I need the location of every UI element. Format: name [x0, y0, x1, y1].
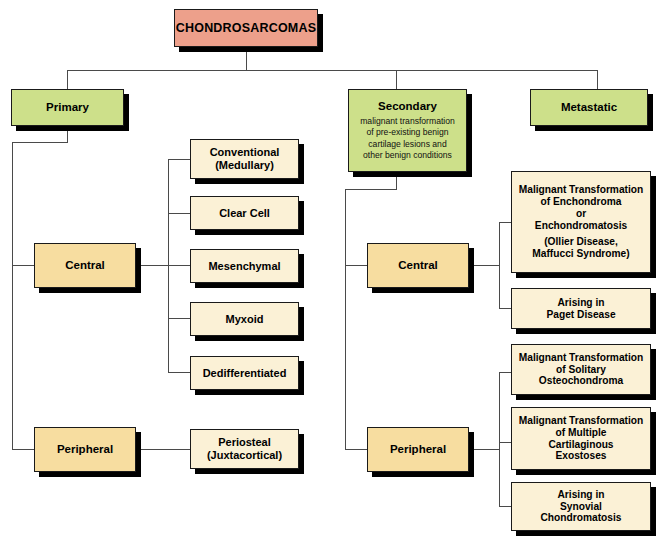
connector-leaf-myxoid [168, 318, 190, 319]
connector-sec-central-item1 [499, 222, 511, 223]
chondrosarcoma-classification-diagram: CHONDROSARCOMAS Primary Secondary malign… [0, 0, 662, 536]
connector-drop-primary [67, 70, 68, 89]
node-subtitle: malignant transformation of pre-existing… [360, 116, 455, 161]
leaf-line-3: Osteochondroma [539, 375, 623, 387]
connector-primary-spine [12, 142, 13, 450]
connector-sec-central-out [469, 265, 499, 266]
leaf-line-1: Mesenchymal [208, 260, 280, 273]
subtitle-line: malignant transformation [360, 116, 455, 127]
leaf-line-4: Enchondromatosis [535, 220, 627, 232]
leaf-line-1: Arising in [558, 297, 605, 309]
subtitle-line: of pre-existing benign [360, 127, 455, 138]
subtitle-line: cartilage lesions and [360, 139, 455, 150]
connector-primary-to-central [12, 265, 34, 266]
node-label: Peripheral [57, 443, 113, 456]
node-label: Peripheral [390, 443, 446, 456]
node-secondary-central[interactable]: Central [367, 243, 469, 288]
connector-primary-stem [67, 126, 68, 143]
leaf-line-2: (Medullary) [215, 159, 274, 172]
leaf-paren-line-2: Maffucci Syndrome) [532, 248, 629, 260]
connector-peripheral-to-periosteal [136, 449, 190, 450]
leaf-line-1: Myxoid [226, 313, 264, 326]
connector-sec-central-item2 [499, 308, 511, 309]
connector-drop-metastatic [597, 70, 598, 89]
connector-secondary-elbow [345, 189, 397, 190]
connector-leaf-dediff [168, 372, 190, 373]
node-label: Secondary [378, 100, 437, 113]
connector-drop-secondary [396, 70, 397, 89]
leaf-periosteal-juxtacortical[interactable]: Periosteal (Juxtacortical) [190, 429, 299, 469]
connector-root-stem [246, 47, 247, 71]
connector-sec-peripheral-out [469, 449, 499, 450]
leaf-line-3: or [576, 208, 586, 220]
leaf-line-4: Exostoses [556, 450, 607, 462]
leaf-line-1: Periosteal [218, 436, 271, 449]
leaf-line-1: Clear Cell [219, 207, 270, 220]
connector-sec-central-spine [499, 222, 500, 309]
connector-secondary-spine [345, 189, 346, 449]
leaf-line-2: Synovial [560, 501, 602, 513]
connector-secondary-stem [396, 172, 397, 190]
node-label: Central [398, 259, 438, 272]
leaf-line-2: (Juxtacortical) [207, 449, 282, 462]
leaf-mesenchymal[interactable]: Mesenchymal [190, 249, 299, 283]
leaf-line-1: Malignant Transformation [519, 352, 644, 364]
leaf-malignant-transformation-solitary-osteochondroma[interactable]: Malignant Transformation of Solitary Ost… [511, 344, 651, 395]
node-primary-central[interactable]: Central [34, 243, 136, 288]
leaf-line-1: Conventional [210, 146, 280, 159]
node-label: Central [65, 259, 105, 272]
leaf-line-1: Malignant Transformation [519, 415, 644, 427]
leaf-line-1: Dedifferentiated [203, 367, 287, 380]
leaf-line-2: Paget Disease [546, 309, 615, 321]
connector-sec-peripheral-item2 [499, 442, 511, 443]
leaf-line-3: Chondromatosis [541, 512, 622, 524]
connector-sec-peripheral-spine [499, 372, 500, 506]
leaf-dedifferentiated[interactable]: Dedifferentiated [190, 356, 299, 390]
leaf-arising-in-synovial-chondromatosis[interactable]: Arising in Synovial Chondromatosis [511, 482, 651, 531]
leaf-malignant-transformation-multiple-cartilaginous-exostoses[interactable]: Malignant Transformation of Multiple Car… [511, 407, 651, 470]
connector-secondary-to-peripheral [345, 449, 367, 450]
leaf-line-3: Cartilaginous [548, 439, 613, 451]
connector-secondary-to-central [345, 265, 367, 266]
connector-leaf-conventional [168, 159, 190, 160]
connector-sec-peripheral-item1 [499, 372, 511, 373]
node-label: Metastatic [561, 101, 617, 114]
leaf-clear-cell[interactable]: Clear Cell [190, 196, 299, 230]
connector-top-bus [67, 70, 597, 71]
leaf-line-2: of Solitary [556, 364, 606, 376]
leaf-paren-line-1: (Ollier Disease, [544, 236, 618, 248]
subtitle-line: other benign conditions [360, 150, 455, 161]
node-metastatic[interactable]: Metastatic [530, 89, 648, 126]
connector-leaf-clearcell [168, 213, 190, 214]
node-label: Primary [46, 101, 89, 114]
node-secondary[interactable]: Secondary malignant transformation of pr… [348, 89, 467, 172]
node-primary-peripheral[interactable]: Peripheral [34, 427, 136, 472]
leaf-malignant-transformation-enchondroma[interactable]: Malignant Transformation of Enchondroma … [511, 171, 651, 273]
leaf-arising-in-paget-disease[interactable]: Arising in Paget Disease [511, 288, 651, 329]
connector-primary-elbow [12, 142, 68, 143]
node-label: CHONDROSARCOMAS [176, 21, 317, 35]
leaf-line-1: Malignant Transformation [519, 184, 644, 196]
connector-sec-peripheral-item3 [499, 506, 511, 507]
node-chondrosarcomas-root[interactable]: CHONDROSARCOMAS [174, 9, 318, 47]
leaf-myxoid[interactable]: Myxoid [190, 302, 299, 336]
leaf-line-1: Arising in [558, 489, 605, 501]
leaf-line-2: of Enchondroma [541, 196, 622, 208]
connector-primary-to-peripheral [12, 449, 34, 450]
connector-leaf-mesenchymal [168, 265, 190, 266]
leaf-line-2: of Multiple [556, 427, 607, 439]
node-primary[interactable]: Primary [11, 89, 124, 126]
leaf-conventional-medullary[interactable]: Conventional (Medullary) [190, 139, 299, 179]
node-secondary-peripheral[interactable]: Peripheral [367, 427, 469, 472]
